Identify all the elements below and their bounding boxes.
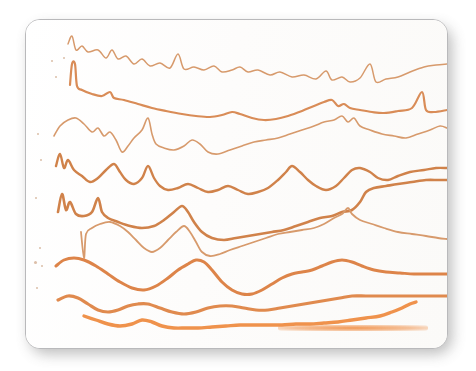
screenshot-root (0, 0, 476, 371)
chart-trace-4 (56, 154, 447, 194)
bottom-smudge-mark (278, 325, 428, 331)
paper-speck-8 (34, 261, 37, 264)
chart-trace-1 (68, 36, 447, 83)
chart-trace-8 (58, 296, 447, 314)
spectral-trace-plot (26, 20, 448, 349)
chart-trace-3 (54, 116, 447, 154)
scanned-chart-card (25, 19, 448, 349)
chart-trace-5 (58, 180, 447, 240)
chart-trace-7 (56, 258, 447, 295)
